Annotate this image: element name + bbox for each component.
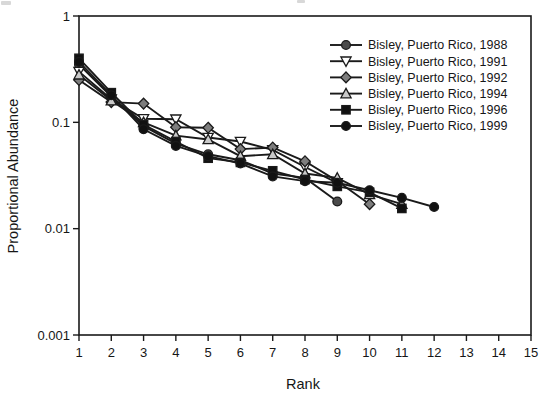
y-tick-label: 0.01 — [45, 221, 70, 236]
x-tick-label: 7 — [269, 345, 276, 360]
data-point-circle-marker — [333, 178, 342, 187]
x-tick-label: 15 — [524, 345, 538, 360]
x-axis-title: Rank — [286, 376, 321, 392]
data-point-circle-marker — [268, 172, 277, 181]
scan-artifact — [297, 0, 305, 3]
legend-item: Bisley, Puerto Rico, 1994 — [330, 87, 507, 101]
y-tick-label: 0.1 — [52, 115, 70, 130]
legend-item: Bisley, Puerto Rico, 1991 — [330, 55, 507, 69]
data-point-circle-marker — [430, 203, 439, 212]
data-point-circle-marker — [107, 91, 116, 100]
x-tick-label: 5 — [205, 345, 212, 360]
legend-label: Bisley, Puerto Rico, 1999 — [368, 119, 507, 133]
data-point-circle-marker — [171, 142, 180, 151]
scan-artifact — [1, 1, 11, 5]
x-tick-label: 11 — [395, 345, 409, 360]
data-point-diamond-marker — [203, 122, 213, 133]
x-tick-label: 13 — [459, 345, 473, 360]
x-tick-label: 6 — [237, 345, 244, 360]
legend-circle-icon — [342, 122, 351, 131]
series-line — [79, 80, 370, 204]
data-point-square-marker — [398, 204, 406, 212]
x-tick-label: 1 — [75, 345, 82, 360]
x-tick-label: 4 — [172, 345, 179, 360]
data-point-circle-marker — [333, 197, 342, 206]
x-tick-label: 2 — [108, 345, 115, 360]
legend-square-icon — [342, 106, 350, 114]
data-point-circle-marker — [365, 186, 374, 195]
y-axis-title: Proportional Abundance — [5, 99, 21, 254]
x-tick-label: 9 — [334, 345, 341, 360]
legend-label: Bisley, Puerto Rico, 1988 — [368, 38, 507, 52]
x-tick-label: 3 — [140, 345, 147, 360]
legend-item: Bisley, Puerto Rico, 1999 — [330, 119, 507, 133]
chart-page: 12345678910111213141510.10.010.001 Bisle… — [0, 0, 549, 402]
data-point-circle-marker — [397, 193, 406, 202]
x-tick-label: 8 — [301, 345, 308, 360]
legend-diamond-icon — [341, 72, 351, 83]
y-tick-label: 1 — [63, 9, 70, 24]
legend: Bisley, Puerto Rico, 1988Bisley, Puerto … — [330, 38, 507, 133]
data-point-circle-marker — [204, 152, 213, 161]
x-tick-label: 12 — [427, 345, 441, 360]
legend-label: Bisley, Puerto Rico, 1996 — [368, 103, 507, 117]
legend-label: Bisley, Puerto Rico, 1992 — [368, 71, 507, 85]
legend-item: Bisley, Puerto Rico, 1992 — [330, 71, 507, 85]
data-point-circle-marker — [236, 159, 245, 168]
legend-circle-icon — [342, 41, 351, 50]
data-point-diamond-marker — [364, 199, 374, 210]
legend-item: Bisley, Puerto Rico, 1988 — [330, 38, 507, 52]
data-point-circle-marker — [139, 125, 148, 134]
data-point-circle-marker — [301, 177, 310, 186]
legend-label: Bisley, Puerto Rico, 1994 — [368, 87, 507, 101]
y-tick-label: 0.001 — [37, 328, 70, 343]
legend-label: Bisley, Puerto Rico, 1991 — [368, 55, 507, 69]
legend-item: Bisley, Puerto Rico, 1996 — [330, 103, 507, 117]
x-tick-label: 10 — [362, 345, 376, 360]
data-point-circle-marker — [75, 58, 84, 67]
x-tick-label: 14 — [491, 345, 505, 360]
rank-abundance-chart: 12345678910111213141510.10.010.001 Bisle… — [0, 0, 549, 402]
